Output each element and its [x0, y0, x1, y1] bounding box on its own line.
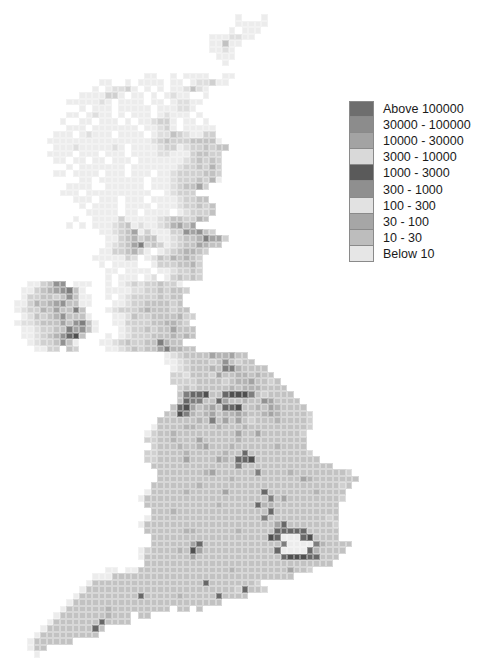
grid-cell — [248, 34, 255, 41]
grid-cell — [164, 606, 171, 613]
grid-cell — [203, 92, 210, 99]
grid-cell — [222, 60, 229, 67]
grid-cell — [333, 554, 340, 561]
grid-cell — [287, 573, 294, 580]
grid-cell — [203, 216, 210, 223]
legend-swatch — [349, 165, 374, 181]
legend-swatch — [349, 230, 374, 246]
legend-label: 1000 - 3000 — [383, 165, 450, 181]
grid-cell — [86, 300, 93, 307]
grid-cell — [352, 476, 359, 483]
grid-cell — [183, 606, 190, 613]
grid-cell — [34, 651, 41, 658]
legend-swatch — [349, 133, 374, 149]
grid-cell — [86, 281, 93, 288]
grid-cell — [190, 313, 197, 320]
legend: Above 100000 30000 - 100000 10000 - 3000… — [349, 101, 471, 262]
grid-cell — [125, 619, 132, 626]
grid-cell — [60, 170, 67, 177]
grid-cell — [190, 333, 197, 340]
grid-cell — [196, 99, 203, 106]
legend-item: 30000 - 100000 — [349, 117, 471, 133]
legend-label: 10 - 30 — [383, 230, 422, 246]
legend-label: 100 - 300 — [383, 198, 436, 214]
legend-swatch — [349, 198, 374, 214]
grid-cell — [229, 53, 236, 60]
grid-cell — [222, 79, 229, 86]
grid-cell — [92, 326, 99, 333]
grid-cell — [196, 606, 203, 613]
legend-label: 10000 - 30000 — [383, 133, 464, 149]
legend-label: 3000 - 10000 — [383, 149, 457, 165]
grid-cell — [92, 632, 99, 639]
legend-item: 100 - 300 — [349, 198, 471, 214]
grid-cell — [307, 567, 314, 574]
grid-cell — [229, 73, 236, 80]
grid-cell — [235, 40, 242, 47]
grid-cell — [307, 424, 314, 431]
grid-cell — [346, 541, 353, 548]
grid-cell — [183, 287, 190, 294]
grid-cell — [53, 346, 60, 353]
legend-swatch — [349, 246, 374, 262]
grid-cell — [203, 248, 210, 255]
grid-cell — [216, 599, 223, 606]
grid-cell — [255, 27, 262, 34]
grid-cell — [261, 21, 268, 28]
grid-cell — [261, 586, 268, 593]
grid-cell — [216, 177, 223, 184]
grid-cell — [346, 482, 353, 489]
legend-swatch — [349, 101, 374, 117]
grid-cell — [339, 495, 346, 502]
legend-label: Below 10 — [383, 246, 434, 262]
grid-cell — [66, 638, 73, 645]
grid-cell — [222, 144, 229, 151]
grid-cell — [144, 612, 151, 619]
legend-item: Above 100000 — [349, 101, 471, 117]
legend-label: 30 - 100 — [383, 214, 429, 230]
grid-cell — [209, 209, 216, 216]
legend-item: Below 10 — [349, 246, 471, 262]
legend-item: 300 - 1000 — [349, 181, 471, 197]
legend-label: Above 100000 — [383, 101, 464, 117]
legend-item: 10 - 30 — [349, 230, 471, 246]
legend-swatch — [349, 149, 374, 165]
grid-cell — [203, 183, 210, 190]
grid-cell — [196, 274, 203, 281]
grid-cell — [242, 593, 249, 600]
grid-cell — [79, 333, 86, 340]
legend-label: 300 - 1000 — [383, 182, 443, 198]
legend-item: 30 - 100 — [349, 214, 471, 230]
legend-swatch — [349, 117, 374, 133]
legend-item: 10000 - 30000 — [349, 133, 471, 149]
grid-cell — [222, 235, 229, 242]
grid-cell — [66, 222, 73, 229]
grid-cell — [216, 242, 223, 249]
legend-swatch — [349, 214, 374, 230]
grid-cell — [99, 625, 106, 632]
grid-cell — [339, 547, 346, 554]
grid-cell — [40, 645, 47, 652]
legend-swatch — [349, 181, 374, 197]
grid-cell — [73, 346, 80, 353]
grid-cell — [79, 222, 86, 229]
legend-item: 3000 - 10000 — [349, 149, 471, 165]
legend-item: 1000 - 3000 — [349, 165, 471, 181]
grid-cell — [326, 560, 333, 567]
legend-label: 30000 - 100000 — [383, 117, 471, 133]
